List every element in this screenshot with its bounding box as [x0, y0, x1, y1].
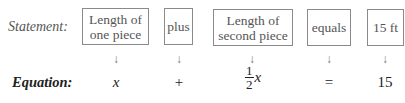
box-text: plus — [167, 19, 190, 34]
box-text: equals — [312, 20, 347, 35]
box-length-second-piece: Length ofsecond piece — [213, 9, 293, 46]
down-arrow-icon: ↓ — [382, 52, 388, 67]
statement-label: Statement: — [8, 19, 68, 35]
down-arrow-icon: ↓ — [113, 52, 119, 67]
equation-term-x: x — [254, 69, 261, 86]
box-text-line2: second piece — [218, 28, 287, 43]
box-text-line2: one piece — [89, 27, 142, 42]
box-text: 15 ft — [373, 20, 398, 35]
box-text-line1: Length of — [89, 12, 142, 27]
fraction-numerator: 1 — [245, 64, 254, 78]
box-15-ft: 15 ft — [367, 9, 404, 46]
equation-rhs: 15 — [378, 74, 393, 91]
box-length-one-piece: Length ofone piece — [82, 8, 149, 45]
box-equals: equals — [307, 9, 351, 46]
equation-term-x: x — [113, 74, 120, 91]
equation-plus: + — [175, 74, 183, 91]
equation-label: Equation: — [12, 74, 72, 91]
box-plus: plus — [164, 8, 193, 45]
down-arrow-icon: ↓ — [176, 52, 182, 67]
fraction-denominator: 2 — [246, 78, 253, 91]
equation-equals: = — [325, 74, 333, 91]
fraction-one-half: 1 2 — [245, 64, 254, 91]
equation-half-x: 1 2 x — [245, 64, 261, 91]
down-arrow-icon: ↓ — [326, 52, 332, 67]
box-text-line1: Length of — [218, 13, 287, 28]
